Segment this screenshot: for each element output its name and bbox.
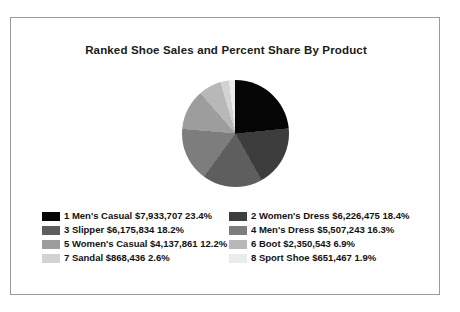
legend-column-right: 2 Women's Dress $6,226,475 18.4%4 Men's … — [229, 209, 424, 265]
chart-title: Ranked Shoe Sales and Percent Share By P… — [11, 44, 441, 56]
legend-swatch — [229, 226, 247, 235]
legend-item: 6 Boot $2,350,543 6.9% — [229, 237, 424, 251]
legend-column-left: 1 Men's Casual $7,933,707 23.4%3 Slipper… — [42, 209, 237, 265]
pie-slices — [182, 80, 289, 187]
legend-item: 2 Women's Dress $6,226,475 18.4% — [229, 209, 424, 223]
chart-frame: Ranked Shoe Sales and Percent Share By P… — [10, 17, 440, 295]
legend-item-label: 7 Sandal $868,436 2.6% — [64, 253, 170, 263]
legend-swatch — [42, 212, 60, 221]
legend-item: 5 Women's Casual $4,137,861 12.2% — [42, 237, 237, 251]
legend-swatch — [229, 240, 247, 249]
legend-item-label: 5 Women's Casual $4,137,861 12.2% — [64, 239, 227, 249]
pie-chart — [182, 80, 289, 187]
legend-item: 8 Sport Shoe $651,467 1.9% — [229, 251, 424, 265]
legend-swatch — [42, 226, 60, 235]
legend-swatch — [42, 240, 60, 249]
legend-swatch — [42, 254, 60, 263]
chart-legend: 1 Men's Casual $7,933,707 23.4%3 Slipper… — [42, 209, 432, 269]
legend-item: 4 Men's Dress $5,507,243 16.3% — [229, 223, 424, 237]
legend-swatch — [229, 254, 247, 263]
legend-item-label: 1 Men's Casual $7,933,707 23.4% — [64, 211, 212, 221]
legend-item: 3 Slipper $6,175,834 18.2% — [42, 223, 237, 237]
legend-item: 1 Men's Casual $7,933,707 23.4% — [42, 209, 237, 223]
legend-item-label: 3 Slipper $6,175,834 18.2% — [64, 225, 184, 235]
legend-item-label: 6 Boot $2,350,543 6.9% — [251, 239, 355, 249]
legend-swatch — [229, 212, 247, 221]
legend-item: 7 Sandal $868,436 2.6% — [42, 251, 237, 265]
legend-item-label: 4 Men's Dress $5,507,243 16.3% — [251, 225, 394, 235]
legend-item-label: 2 Women's Dress $6,226,475 18.4% — [251, 211, 409, 221]
legend-item-label: 8 Sport Shoe $651,467 1.9% — [251, 253, 376, 263]
